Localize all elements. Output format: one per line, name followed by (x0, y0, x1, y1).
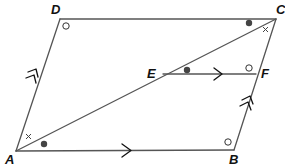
angle-dot-c-icon (246, 20, 252, 26)
angle-circle-b-icon (225, 139, 231, 145)
geometry-diagram: D C E F A B (0, 0, 285, 166)
segment-da (16, 19, 60, 151)
angle-cross-c-icon (263, 27, 268, 32)
angle-circle-d-icon (63, 23, 69, 29)
angle-dot-e-icon (184, 67, 190, 73)
vertex-label-e: E (147, 66, 156, 81)
segment-bc (234, 19, 276, 150)
vertex-label-d: D (51, 2, 61, 17)
vertex-label-a: A (4, 152, 14, 166)
angle-circle-f-icon (246, 65, 252, 71)
vertex-label-c: C (276, 2, 285, 17)
segment-ab (16, 150, 234, 151)
vertex-label-b: B (229, 152, 238, 166)
vertex-label-f: F (261, 66, 270, 81)
double-arrow-bc-icon (240, 96, 253, 110)
angle-dot-a-icon (41, 141, 47, 147)
double-arrow-da-icon (26, 69, 38, 83)
angle-cross-a-icon (26, 134, 31, 139)
diagonal-ac (16, 19, 276, 151)
